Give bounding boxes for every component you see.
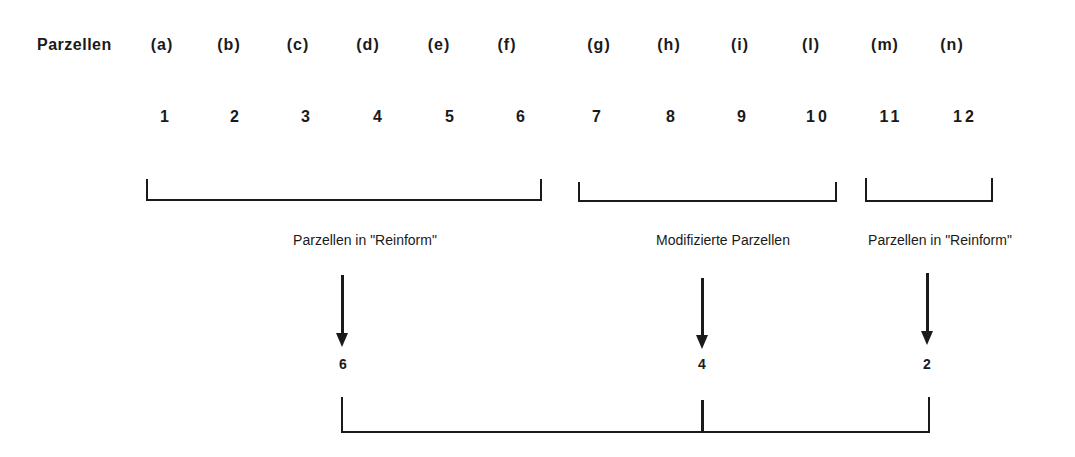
parcel-label-b: (b) bbox=[217, 36, 240, 54]
parcel-label-g: (g) bbox=[587, 36, 610, 54]
parcel-label-h: (h) bbox=[657, 36, 680, 54]
group-count-reinform-right: 2 bbox=[923, 356, 931, 372]
group-count-reinform-left: 6 bbox=[339, 356, 347, 372]
group-count-modified: 4 bbox=[698, 356, 706, 372]
parcel-label-f: (f) bbox=[498, 36, 517, 54]
parcel-label-l: (l) bbox=[802, 36, 820, 54]
parcel-number-8: 8 bbox=[666, 108, 678, 126]
parcel-number-10: 10 bbox=[806, 108, 830, 126]
parcel-number-7: 7 bbox=[592, 108, 604, 126]
group-bracket-reinform-right bbox=[865, 178, 993, 202]
parcel-number-1: 1 bbox=[160, 108, 172, 126]
parcel-number-3: 3 bbox=[301, 108, 313, 126]
combined-bracket bbox=[341, 397, 930, 433]
parcel-number-9: 9 bbox=[737, 108, 749, 126]
parcel-label-a: (a) bbox=[151, 36, 174, 54]
combined-bracket-middle-tick bbox=[701, 400, 704, 433]
parcel-label-i: (i) bbox=[731, 36, 749, 54]
group-caption-reinform-right: Parzellen in "Reinform" bbox=[868, 232, 1012, 248]
parcel-number-4: 4 bbox=[373, 108, 385, 126]
parcel-number-6: 6 bbox=[516, 108, 528, 126]
parcel-label-d: (d) bbox=[356, 36, 379, 54]
group-bracket-modified bbox=[578, 182, 837, 202]
parcel-number-2: 2 bbox=[230, 108, 242, 126]
row-title: Parzellen bbox=[37, 36, 112, 54]
parcel-number-12: 12 bbox=[953, 108, 977, 126]
parcel-label-c: (c) bbox=[287, 36, 310, 54]
parcel-label-e: (e) bbox=[428, 36, 451, 54]
parcel-number-11: 11 bbox=[880, 108, 903, 126]
group-bracket-reinform-left bbox=[146, 179, 542, 201]
parcel-number-5: 5 bbox=[445, 108, 457, 126]
group-caption-reinform-left: Parzellen in "Reinform" bbox=[293, 232, 437, 248]
group-caption-modified: Modifizierte Parzellen bbox=[656, 232, 790, 248]
parcel-label-n: (n) bbox=[940, 36, 963, 54]
parcel-label-m: (m) bbox=[871, 36, 899, 54]
